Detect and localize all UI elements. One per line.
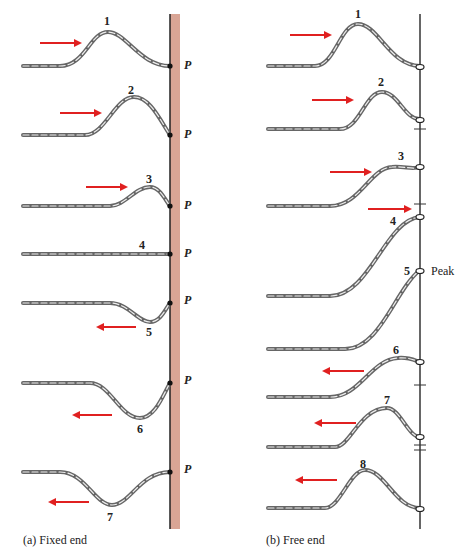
pulse-label-b7: 7 (384, 393, 390, 408)
panel-b-ropes (268, 24, 420, 508)
pulse-label-b2: 2 (378, 75, 384, 90)
peak-label: Peak (431, 264, 454, 279)
panel-a-ropes (23, 32, 170, 505)
point-p-7: P (184, 462, 191, 477)
point-p-3: P (184, 198, 191, 213)
point-p-1: P (184, 58, 191, 73)
pulse-label-b3: 3 (398, 149, 404, 164)
point-p-6: P (184, 373, 191, 388)
pulse-label-a1: 1 (104, 14, 110, 29)
panel-b-arrows (290, 35, 410, 480)
pulse-label-a5: 5 (146, 325, 152, 340)
pulse-label-b5: 5 (404, 264, 410, 279)
pulse-label-a3: 3 (146, 172, 152, 187)
pulse-label-b1: 1 (355, 7, 361, 22)
pulse-label-a7: 7 (107, 510, 113, 525)
panel-a-arrows (40, 43, 136, 502)
caption-fixed-end: (a) Fixed end (23, 533, 87, 548)
point-p-2: P (184, 127, 191, 142)
pulse-label-b6: 6 (393, 343, 399, 358)
pulse-label-a2: 2 (128, 83, 134, 98)
wave-reflection-diagram (0, 0, 476, 559)
point-p-4: P (184, 246, 191, 261)
pulse-label-b4: 4 (390, 214, 396, 229)
caption-free-end: (b) Free end (266, 533, 325, 548)
pulse-label-b8: 8 (360, 457, 366, 472)
fixed-wall (170, 14, 180, 529)
point-p-5: P (184, 293, 191, 308)
pulse-label-a4: 4 (139, 238, 145, 253)
pulse-label-a6: 6 (137, 422, 143, 437)
